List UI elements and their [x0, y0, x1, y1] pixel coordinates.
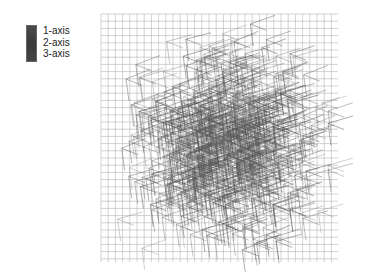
glyph-plot [0, 0, 370, 278]
